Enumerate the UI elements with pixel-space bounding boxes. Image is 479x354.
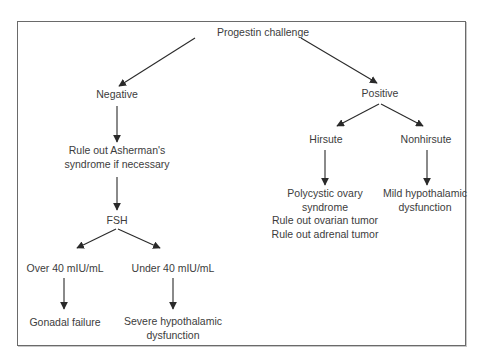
node-gonadal-failure: Gonadal failure <box>29 316 100 330</box>
node-nonhirsute: Nonhirsute <box>401 133 452 147</box>
pcos-line-3: Rule out ovarian tumor <box>272 214 379 228</box>
arrow-fsh-over40 <box>77 229 116 248</box>
node-mild-hypothalamic: Mild hypothalamic dysfunction <box>383 187 467 214</box>
node-hirsute: Hirsute <box>309 133 342 147</box>
pcos-line-1: Polycystic ovary <box>272 187 379 201</box>
node-fsh: FSH <box>107 214 128 228</box>
arrow-positive-hirsute <box>337 104 379 126</box>
mild-line-2: dysfunction <box>383 201 467 215</box>
node-progestin-challenge: Progestin challenge <box>217 26 309 40</box>
severe-line-1: Severe hypothalamic <box>124 315 222 329</box>
pcos-line-4: Rule out adrenal tumor <box>272 228 379 242</box>
pcos-line-2: syndrome <box>272 201 379 215</box>
severe-line-2: dysfunction <box>124 329 222 343</box>
arrow-fsh-under40 <box>118 229 160 248</box>
node-positive: Positive <box>362 87 399 101</box>
asherman-line-2: syndrome if necessary <box>64 158 169 172</box>
arrow-positive-nonhirsute <box>381 104 423 126</box>
node-over-40: Over 40 mIU/mL <box>26 262 103 276</box>
flow-arrows <box>0 0 479 354</box>
node-negative: Negative <box>96 88 137 102</box>
arrow-root-positive <box>301 38 377 83</box>
node-severe-hypothalamic: Severe hypothalamic dysfunction <box>124 315 222 342</box>
mild-line-1: Mild hypothalamic <box>383 187 467 201</box>
asherman-line-1: Rule out Asherman's <box>64 144 169 158</box>
node-asherman: Rule out Asherman's syndrome if necessar… <box>64 144 169 171</box>
node-pcos: Polycystic ovary syndrome Rule out ovari… <box>272 187 379 241</box>
arrow-root-negative <box>119 38 195 86</box>
node-under-40: Under 40 mIU/mL <box>132 262 215 276</box>
